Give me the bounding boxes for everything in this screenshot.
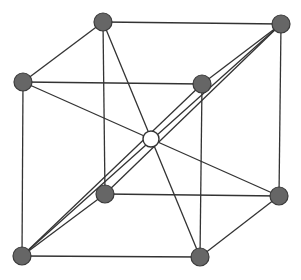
bcc-unit-cell-diagram — [0, 0, 301, 280]
corner-atom-top-back-right — [272, 15, 290, 33]
center-atom — [143, 131, 159, 147]
corner-atom-bottom-back-left — [96, 185, 114, 203]
corner-atom-bottom-back-right — [270, 187, 288, 205]
corner-atom-top-front-left — [14, 73, 32, 91]
corner-atom-top-front-right — [193, 75, 211, 93]
corner-atom-top-back-left — [94, 13, 112, 31]
corner-atom-bottom-front-right — [191, 248, 209, 266]
corner-atom-bottom-front-left — [13, 247, 31, 265]
